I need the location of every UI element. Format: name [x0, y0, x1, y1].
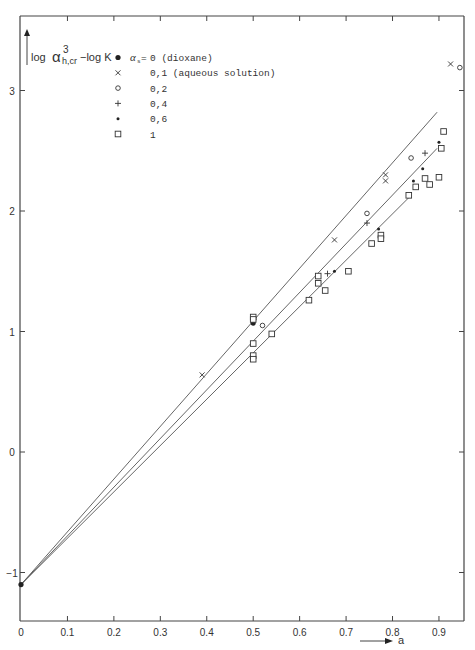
y-label-log: log — [31, 51, 46, 63]
series-4 — [333, 141, 440, 273]
legend-item: 1 — [115, 130, 156, 141]
series-3 — [250, 150, 428, 322]
legend-label: 0,2 — [150, 84, 167, 95]
x-tick-label: 0 — [18, 627, 24, 638]
legend-eq: = — [141, 53, 147, 64]
x-axis-ticks: 00.10.20.30.40.50.60.70.80.9 — [18, 16, 446, 638]
fit-line-lower — [21, 195, 411, 584]
y-tick-label: −1 — [6, 568, 18, 579]
plot-frame — [20, 16, 464, 621]
x-tick-label: 0.1 — [60, 627, 74, 638]
legend-label: 0,4 — [150, 99, 167, 110]
y-tick-label: 1 — [9, 327, 15, 338]
legend-alpha: α — [130, 51, 136, 63]
legend-label: 1 — [150, 130, 156, 141]
x-tick-label: 0.2 — [107, 627, 121, 638]
series-1 — [200, 61, 453, 377]
x-tick-label: 0.4 — [200, 627, 214, 638]
y-axis-label: log α 3 h,cr −log K — [24, 29, 112, 66]
y-tick-label: 0 — [9, 447, 15, 458]
series-2 — [260, 65, 462, 327]
x-tick-label: 0.5 — [246, 627, 260, 638]
y-label-rest: −log K — [80, 51, 112, 63]
x-axis-label: a — [360, 634, 405, 646]
legend-marker-icon — [117, 117, 120, 120]
legend-item: 0,1 (aqueous solution) — [116, 68, 276, 79]
legend-item: 0,6 — [117, 114, 168, 125]
legend-marker-icon — [116, 86, 121, 91]
fit-line-upper — [21, 112, 437, 584]
x-tick-label: 0.7 — [339, 627, 353, 638]
data-points — [18, 61, 462, 587]
series-5 — [250, 129, 446, 362]
legend-label: 0,1 (aqueous solution) — [150, 68, 275, 79]
y-label-alpha: α — [52, 48, 61, 65]
legend-label: 0,6 — [150, 114, 167, 125]
chart-canvas: 00.10.20.30.40.50.60.70.80.9 3210−1 log … — [0, 0, 475, 650]
x-tick-label: 0.3 — [153, 627, 167, 638]
legend: α s = 0 (dioxane)0,1 (aqueous solution)0… — [115, 51, 275, 141]
y-label-sup: 3 — [63, 44, 69, 55]
x-tick-label: 0.6 — [293, 627, 307, 638]
legend-marker-icon — [115, 55, 120, 60]
arrow-up-icon — [24, 29, 30, 36]
legend-item: 0,2 — [116, 84, 168, 95]
x-tick-label: 0.9 — [432, 627, 446, 638]
x-label: a — [398, 634, 405, 646]
y-tick-label: 2 — [9, 206, 15, 217]
legend-marker-icon — [115, 131, 121, 137]
y-label-sub: h,cr — [62, 56, 77, 66]
fit-lines — [21, 112, 437, 584]
legend-item: 0,4 — [115, 99, 167, 110]
legend-label: 0 (dioxane) — [150, 53, 213, 64]
arrow-right-icon — [385, 638, 393, 644]
fit-line-middle — [21, 148, 437, 584]
legend-marker-icon — [115, 100, 121, 106]
y-tick-label: 3 — [9, 86, 15, 97]
legend-marker-icon — [116, 70, 121, 75]
